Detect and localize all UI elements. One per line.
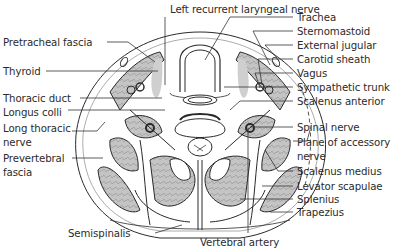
label-splenius: Splenius	[297, 194, 339, 205]
label-vertebral-artery: Vertebral artery	[200, 237, 279, 248]
label-external-jugular: External jugular	[297, 40, 376, 51]
label-sternomastoid: Sternomastoid	[297, 26, 370, 37]
label-levator-scapulae: Levator scapulae	[297, 181, 383, 192]
label-trachea: Trachea	[297, 12, 336, 23]
label-thyroid: Thyroid	[3, 66, 41, 77]
label-sympathetic-trunk: Sympathetic trunk	[297, 82, 390, 93]
neck-cross-section-diagram: Left recurrent laryngeal nerve Pretrache…	[0, 0, 401, 249]
label-spinal-nerve: Spinal nerve	[297, 122, 360, 133]
label-plane-of-accessory-nerve: Plane of accessory	[297, 137, 390, 148]
label-plane-of-accessory-nerve-line2: nerve	[297, 151, 326, 162]
label-trapezius: Trapezius	[297, 207, 344, 218]
label-longus-colli: Longus colli	[3, 107, 62, 118]
label-scalenus-anterior: Scalenus anterior	[297, 96, 385, 107]
label-pretracheal-fascia: Pretracheal fascia	[3, 37, 92, 48]
label-scalenus-medius: Scalenus medius	[297, 166, 382, 177]
label-long-thoracic-nerve-line2: nerve	[3, 137, 32, 148]
label-long-thoracic-nerve: Long thoracic	[3, 123, 71, 134]
label-vagus: Vagus	[297, 68, 327, 79]
label-carotid-sheath: Carotid sheath	[297, 54, 370, 65]
vertebral-body	[175, 119, 225, 138]
trachea	[180, 45, 220, 92]
label-prevertebral-fascia: Prevertebral	[3, 153, 64, 164]
label-thoracic-duct: Thoracic duct	[3, 93, 71, 104]
label-prevertebral-fascia-line2: fascia	[3, 167, 32, 178]
label-semispinalis: Semispinalis	[68, 228, 131, 239]
